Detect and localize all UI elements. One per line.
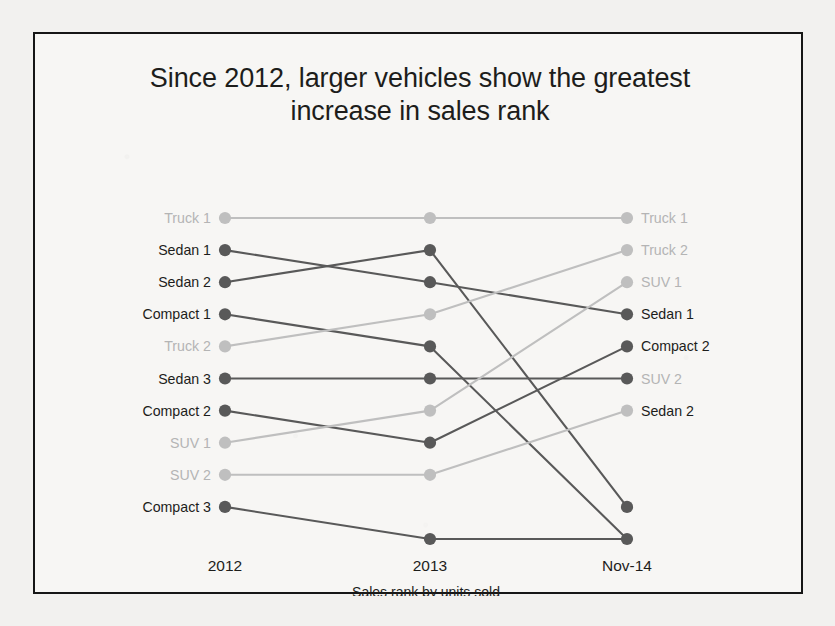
series-line	[430, 411, 627, 475]
x-axis-tick: 2013	[413, 557, 447, 574]
right-series-label: Compact 2	[641, 338, 710, 354]
series-point	[621, 340, 633, 352]
x-axis-tick: 2012	[208, 557, 242, 574]
left-series-label: Truck 1	[164, 210, 211, 226]
left-series-label: SUV 1	[170, 435, 211, 451]
series-point	[219, 372, 231, 384]
left-series-label: Sedan 3	[158, 371, 211, 387]
right-labels-layer: Truck 1Truck 2SUV 1Sedan 1Compact 2SUV 2…	[641, 210, 710, 419]
series-point	[424, 276, 436, 288]
series-point	[424, 308, 436, 320]
right-series-label: Truck 2	[641, 242, 688, 258]
series-point	[621, 533, 633, 545]
series-point	[424, 244, 436, 256]
right-series-label: Sedan 1	[641, 306, 694, 322]
left-labels-layer: Truck 1Sedan 1Sedan 2Compact 1Truck 2Sed…	[142, 210, 211, 515]
series-point	[424, 340, 436, 352]
x-axis-caption: Sales rank by units sold	[352, 584, 500, 596]
left-series-label: Compact 2	[142, 403, 211, 419]
series-point	[219, 340, 231, 352]
left-series-label: Sedan 2	[158, 274, 211, 290]
series-point	[621, 212, 633, 224]
series-point	[424, 533, 436, 545]
series-point	[621, 276, 633, 288]
series-point	[219, 405, 231, 417]
series-point	[424, 372, 436, 384]
slopegraph-svg: Truck 1Sedan 1Sedan 2Compact 1Truck 2Sed…	[35, 34, 805, 596]
slopegraph-plot: Truck 1Sedan 1Sedan 2Compact 1Truck 2Sed…	[35, 34, 805, 596]
series-point	[424, 437, 436, 449]
series-line	[430, 346, 627, 442]
right-series-label: Truck 1	[641, 210, 688, 226]
left-series-label: Compact 3	[142, 499, 211, 515]
series-point	[219, 501, 231, 513]
left-series-label: Compact 1	[142, 306, 211, 322]
right-series-label: Sedan 2	[641, 403, 694, 419]
series-point	[219, 212, 231, 224]
x-axis-tick: Nov-14	[602, 557, 652, 574]
left-series-label: Sedan 1	[158, 242, 211, 258]
right-series-label: SUV 1	[641, 274, 682, 290]
series-point	[219, 244, 231, 256]
series-point	[219, 437, 231, 449]
series-point	[424, 405, 436, 417]
series-point	[424, 469, 436, 481]
series-point	[621, 308, 633, 320]
series-point	[621, 372, 633, 384]
series-point	[621, 501, 633, 513]
x-axis-layer: 20122013Nov-14Sales rank by units sold	[208, 557, 653, 596]
slide-canvas: Since 2012, larger vehicles show the gre…	[33, 32, 803, 594]
series-point	[424, 212, 436, 224]
series-point	[219, 276, 231, 288]
series-point	[621, 244, 633, 256]
right-series-label: SUV 2	[641, 371, 682, 387]
series-line	[225, 507, 430, 539]
series-point	[219, 469, 231, 481]
series-line	[430, 250, 627, 314]
series-line	[430, 282, 627, 410]
left-series-label: SUV 2	[170, 467, 211, 483]
left-series-label: Truck 2	[164, 338, 211, 354]
series-point	[219, 308, 231, 320]
series-point	[621, 405, 633, 417]
